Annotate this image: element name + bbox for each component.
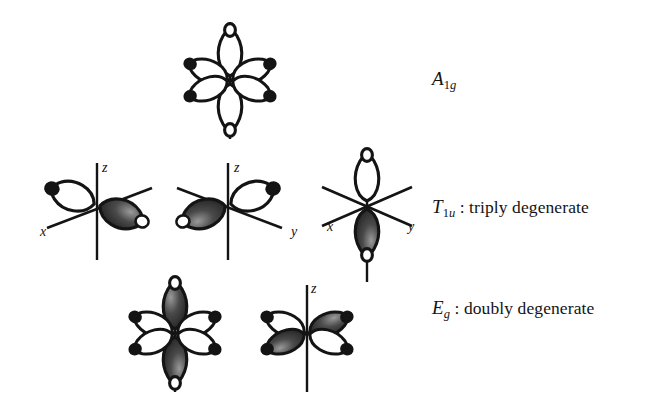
row-label-t1u-symbol: T — [432, 196, 443, 217]
axis-letter-z-t1u-1: z — [102, 160, 107, 176]
row-label-a1g-symbol: A — [432, 68, 444, 89]
row-label-a1g-subscript-letter: g — [450, 78, 456, 92]
row-label-t1u: T1u : triply degenerate — [432, 196, 589, 221]
axis-letter-z-eg-2: z — [311, 281, 316, 297]
t1u-x-orbital — [41, 163, 153, 260]
row-label-t1u-subscript: 1u — [443, 206, 456, 220]
t1u-y-lobe-negative — [172, 193, 230, 237]
row-label-a1g-subscript: 1g — [444, 78, 457, 92]
row-label-eg-description: doubly degenerate — [464, 298, 594, 318]
t1u-y-orbital — [172, 163, 284, 260]
a1g-orbital — [181, 22, 279, 139]
axis-letter-y-t1u-3: y — [408, 219, 414, 235]
row-label-t1u-separator: : — [455, 197, 469, 217]
t1u-z-lobe-negative — [355, 209, 378, 261]
row-label-eg-symbol: E — [432, 297, 444, 318]
axis-letter-z-t1u-2: z — [234, 160, 239, 176]
t1u-z-orbital — [322, 149, 412, 282]
row-label-t1u-description: triply degenerate — [469, 197, 589, 217]
t1u-z-lobe-positive — [355, 149, 378, 201]
row-label-eg: Eg : doubly degenerate — [432, 297, 594, 322]
axis-letter-y-t1u-2: y — [291, 224, 297, 240]
eg-z2-orbital — [126, 276, 224, 392]
t1u-x-lobe-negative — [95, 193, 153, 237]
row-label-a1g: A1g — [432, 68, 456, 93]
axis-letter-x-t1u-1: x — [40, 224, 46, 240]
row-label-eg-separator: : — [450, 298, 464, 318]
eg-x2y2-orbital — [258, 285, 356, 392]
axis-letter-x-t1u-3: x — [327, 219, 333, 235]
